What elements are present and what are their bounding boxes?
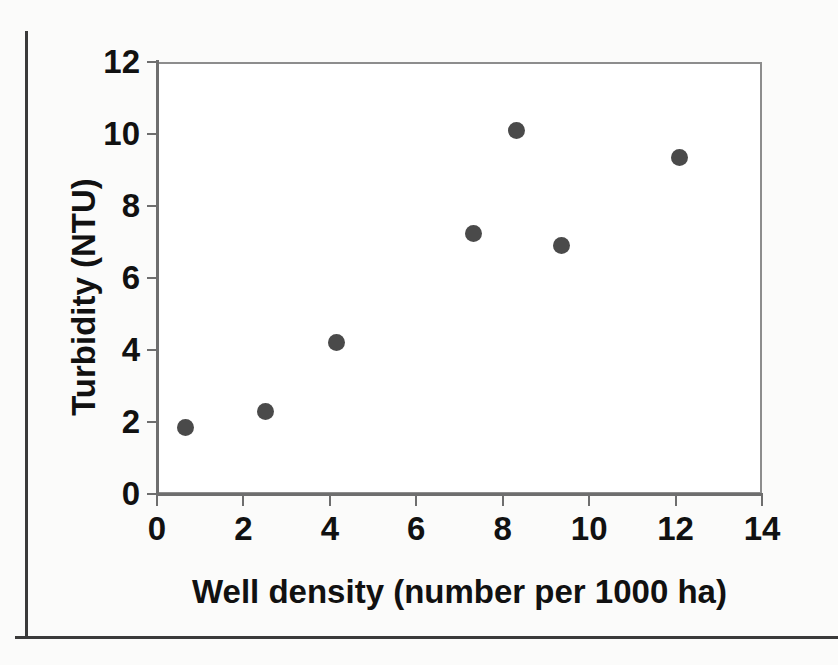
x-tick-2 — [242, 496, 244, 506]
scatter-chart: 024681012 02468101214 Turbidity (NTU) We… — [0, 0, 838, 665]
y-tick-6 — [147, 277, 157, 279]
x-tick-label-6: 6 — [376, 512, 456, 545]
y-tick-12 — [147, 61, 157, 63]
y-tick-8 — [147, 205, 157, 207]
data-point — [177, 419, 194, 436]
x-tick-0 — [156, 496, 158, 506]
y-tick-label-12: 12 — [80, 45, 140, 78]
x-tick-label-8: 8 — [463, 512, 543, 545]
x-tick-label-12: 12 — [636, 512, 716, 545]
x-tick-10 — [588, 496, 590, 506]
data-point — [257, 403, 274, 420]
y-tick-0 — [147, 493, 157, 495]
x-tick-12 — [675, 496, 677, 506]
x-tick-14 — [761, 496, 763, 506]
x-axis-line — [156, 493, 763, 496]
x-tick-label-14: 14 — [722, 512, 802, 545]
x-tick-label-4: 4 — [290, 512, 370, 545]
x-tick-label-2: 2 — [203, 512, 283, 545]
data-point — [328, 334, 345, 351]
x-tick-4 — [329, 496, 331, 506]
y-tick-4 — [147, 349, 157, 351]
x-tick-label-0: 0 — [117, 512, 197, 545]
y-tick-2 — [147, 421, 157, 423]
data-point — [553, 237, 570, 254]
x-tick-8 — [502, 496, 504, 506]
figure-screenshot: 024681012 02468101214 Turbidity (NTU) We… — [0, 0, 838, 665]
x-tick-6 — [415, 496, 417, 506]
y-axis-title: Turbidity (NTU) — [65, 82, 103, 512]
x-tick-label-10: 10 — [549, 512, 629, 545]
data-point — [465, 225, 482, 242]
data-point — [508, 122, 525, 139]
x-axis-title: Well density (number per 1000 ha) — [157, 573, 762, 611]
plot-area — [157, 62, 762, 494]
y-tick-10 — [147, 133, 157, 135]
